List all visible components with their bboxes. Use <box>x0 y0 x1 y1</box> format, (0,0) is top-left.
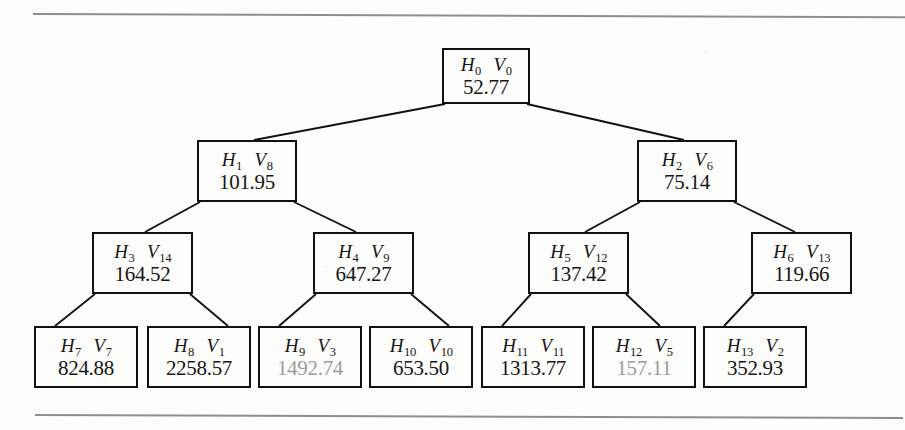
node-header: H5V12 <box>550 242 607 261</box>
node-v-letter: V <box>766 336 778 355</box>
tree-node-n3[interactable]: H3V14164.52 <box>92 232 193 294</box>
node-v-symbol: V2 <box>766 336 784 355</box>
tree-edge <box>734 202 795 232</box>
node-h-subscript: 2 <box>676 160 682 173</box>
node-h-letter: H <box>390 336 404 355</box>
node-v-symbol: V5 <box>655 336 673 355</box>
node-h-letter: H <box>502 336 516 355</box>
node-h-symbol: H5 <box>550 242 570 261</box>
node-v-subscript: 11 <box>553 346 565 359</box>
node-v-subscript: 2 <box>778 346 784 359</box>
node-value: 119.66 <box>774 264 829 285</box>
tree-node-n9[interactable]: H9V31492.74 <box>258 326 362 388</box>
node-h-letter: H <box>616 336 630 355</box>
tree-edge <box>190 294 228 326</box>
node-header: H0V0 <box>461 55 511 74</box>
tree-node-n5[interactable]: H5V12137.42 <box>528 232 629 294</box>
node-v-symbol: V12 <box>583 242 607 261</box>
tree-node-n0[interactable]: H0V052.77 <box>442 48 530 104</box>
node-v-symbol: V14 <box>147 242 171 261</box>
node-header: H1V8 <box>222 150 272 169</box>
node-value: 352.93 <box>727 358 783 379</box>
tree-node-n13[interactable]: H13V2352.93 <box>703 326 807 388</box>
node-value: 653.50 <box>393 358 449 379</box>
bottom-rule <box>35 414 903 419</box>
tree-edge <box>55 294 95 326</box>
node-h-symbol: H7 <box>61 336 81 355</box>
node-v-symbol: V6 <box>695 150 713 169</box>
node-header: H8V1 <box>174 336 224 355</box>
node-h-symbol: H6 <box>773 242 793 261</box>
node-h-symbol: H3 <box>114 242 134 261</box>
node-header: H12V5 <box>616 336 673 355</box>
node-h-symbol: H10 <box>390 336 416 355</box>
node-value: 137.42 <box>551 264 607 285</box>
tree-node-n11[interactable]: H11V111313.77 <box>481 326 585 388</box>
node-h-subscript: 6 <box>787 252 793 265</box>
node-v-subscript: 6 <box>707 160 713 173</box>
tree-edge <box>294 202 356 232</box>
node-h-letter: H <box>114 242 128 261</box>
node-h-letter: H <box>550 242 564 261</box>
node-h-symbol: H9 <box>285 336 305 355</box>
tree-edge <box>527 104 684 140</box>
tree-node-n6[interactable]: H6V13119.66 <box>751 232 852 294</box>
tree-figure: H0V052.77H1V8101.95H2V675.14H3V14164.52H… <box>0 0 905 430</box>
node-h-subscript: 3 <box>128 252 134 265</box>
node-header: H3V14 <box>114 242 171 261</box>
node-h-symbol: H12 <box>616 336 642 355</box>
node-header: H9V3 <box>285 336 335 355</box>
node-v-subscript: 12 <box>595 252 607 265</box>
node-v-letter: V <box>94 336 106 355</box>
node-header: H13V2 <box>727 336 784 355</box>
tree-node-n7[interactable]: H7V7824.88 <box>34 326 138 388</box>
node-h-letter: H <box>461 55 475 74</box>
node-v-letter: V <box>255 150 267 169</box>
node-v-subscript: 10 <box>441 346 453 359</box>
node-h-letter: H <box>61 336 75 355</box>
node-v-letter: V <box>806 242 818 261</box>
node-v-symbol: V7 <box>94 336 112 355</box>
node-header: H6V13 <box>773 242 830 261</box>
tree-node-n10[interactable]: H10V10653.50 <box>369 326 473 388</box>
node-h-subscript: 4 <box>353 252 359 265</box>
node-v-symbol: V0 <box>494 55 512 74</box>
node-v-letter: V <box>655 336 667 355</box>
node-h-letter: H <box>285 336 299 355</box>
tree-edge <box>411 294 449 326</box>
node-v-letter: V <box>541 336 553 355</box>
node-v-letter: V <box>429 336 441 355</box>
node-header: H4V9 <box>338 242 388 261</box>
tree-node-n8[interactable]: H8V12258.57 <box>147 326 251 388</box>
node-h-letter: H <box>174 336 188 355</box>
node-v-symbol: V9 <box>371 242 389 261</box>
node-v-letter: V <box>371 242 383 261</box>
tree-node-n2[interactable]: H2V675.14 <box>637 140 737 202</box>
node-header: H11V11 <box>502 336 564 355</box>
tree-node-n12[interactable]: H12V5157.11 <box>592 326 696 388</box>
node-h-letter: H <box>662 150 676 169</box>
node-h-subscript: 10 <box>404 346 416 359</box>
node-v-letter: V <box>695 150 707 169</box>
tree-node-n1[interactable]: H1V8101.95 <box>197 140 297 202</box>
node-h-subscript: 7 <box>75 346 81 359</box>
node-h-symbol: H2 <box>662 150 682 169</box>
tree-node-n4[interactable]: H4V9647.27 <box>313 232 414 294</box>
tree-edge <box>502 294 531 326</box>
tree-edge <box>626 294 660 326</box>
node-v-letter: V <box>318 336 330 355</box>
node-h-letter: H <box>727 336 741 355</box>
node-h-symbol: H1 <box>222 150 242 169</box>
node-h-letter: H <box>773 242 787 261</box>
node-v-symbol: V10 <box>429 336 453 355</box>
node-value: 164.52 <box>115 264 171 285</box>
node-v-letter: V <box>147 242 159 261</box>
node-h-letter: H <box>222 150 236 169</box>
node-v-subscript: 13 <box>818 252 830 265</box>
node-h-subscript: 11 <box>516 346 528 359</box>
node-value: 157.11 <box>616 358 671 379</box>
node-value: 1492.74 <box>277 358 343 379</box>
top-rule <box>33 13 905 18</box>
node-header: H10V10 <box>390 336 453 355</box>
node-v-subscript: 7 <box>106 346 112 359</box>
